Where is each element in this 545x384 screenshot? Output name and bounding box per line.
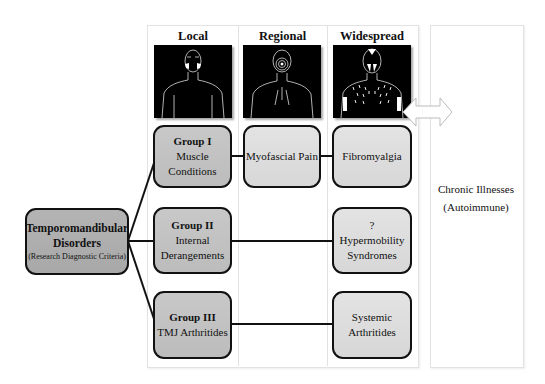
group-1-line1: Muscle: [176, 149, 208, 164]
hypermobility-line2: Syndromes: [347, 248, 397, 263]
tmd-subtitle: (Research Diagnostic Criteria): [28, 252, 126, 263]
group-2-box: Group II Internal Derangements: [153, 207, 232, 274]
group-2-line2: Derangements: [161, 248, 225, 263]
myofascial-pain-box: Myofascial Pain: [243, 125, 321, 188]
chronic-illnesses-label: Chronic Illnesses (Autoimmune): [430, 181, 522, 216]
tmd-root-box: Temporomandibular Disorders (Research Di…: [25, 208, 129, 275]
group-1-heading: Group I: [173, 134, 211, 149]
tmd-title-line2: Disorders: [53, 236, 101, 252]
group-1-box: Group I Muscle Conditions: [153, 125, 232, 188]
systemic-line1: Systemic: [352, 310, 392, 325]
hypermobility-box: ? Hypermobility Syndromes: [332, 207, 412, 274]
group-1-line2: Conditions: [168, 164, 216, 179]
hypermobility-line1: Hypermobility: [340, 233, 405, 248]
group-2-line1: Internal: [175, 233, 209, 248]
chronic-illnesses-line1: Chronic Illnesses: [430, 181, 522, 199]
group-3-heading: Group III: [169, 310, 216, 325]
group-2-heading: Group II: [171, 218, 213, 233]
fibromyalgia-label: Fibromyalgia: [342, 149, 401, 164]
group-3-line1: TMJ Arthritides: [157, 325, 228, 340]
chronic-illnesses-line2: (Autoimmune): [430, 199, 522, 217]
tmd-title-line1: Temporomandibular: [26, 221, 128, 237]
fibromyalgia-box: Fibromyalgia: [332, 125, 412, 188]
systemic-line2: Arthritides: [348, 325, 396, 340]
systemic-arthritides-box: Systemic Arthritides: [332, 291, 412, 359]
hypermobility-question: ?: [370, 218, 375, 233]
group-3-box: Group III TMJ Arthritides: [153, 291, 232, 359]
myofascial-pain-label: Myofascial Pain: [246, 149, 318, 164]
